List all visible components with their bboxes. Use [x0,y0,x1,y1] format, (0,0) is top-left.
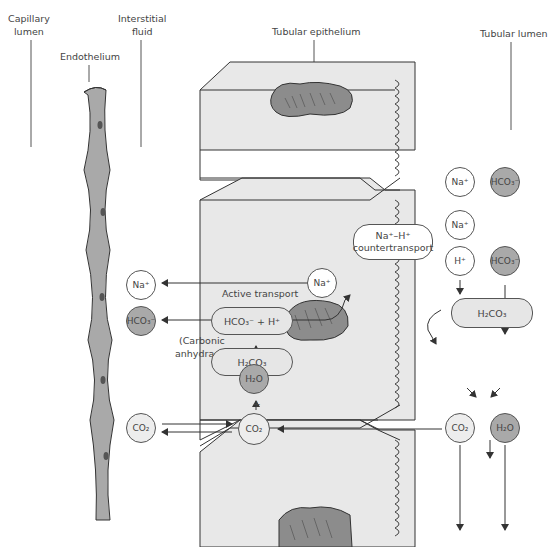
active-transport-label: Active transport [222,287,298,300]
endothelium-label: Endothelium [60,50,120,63]
lumen-bicarbonate-ion-top: HCO₃⁻ [490,167,520,197]
plus-sign: + [253,398,261,411]
interstitial-carbon-dioxide: CO₂ [126,413,156,443]
cell-carbon-dioxide: CO₂ [238,413,270,445]
interstitial-sodium-ion: Na⁺ [126,270,156,300]
cell-bicarbonate-hydrogen-pill: HCO₃⁻ + H⁺ [211,307,293,335]
lumen-bicarbonate-ion-bottom: HCO₃⁻ [490,246,520,276]
capillary-lumen-label: Capillary lumen [8,12,50,38]
lumen-carbon-dioxide: CO₂ [445,413,475,443]
lumen-water-molecule: H₂O [490,413,520,443]
lumen-carbonic-acid-pill: H₂CO₃ [451,298,533,328]
lumen-sodium-ion-top: Na⁺ [445,167,475,197]
interstitial-bicarbonate-ion: HCO₃⁻ [126,306,156,336]
cell-water-molecule: H₂O [239,364,269,394]
interstitial-fluid-label: Interstitial fluid [118,12,166,38]
cell-sodium-ion: Na⁺ [307,268,337,298]
tubular-epithelium-label: Tubular epithelium [272,25,360,38]
lumen-hydrogen-ion: H⁺ [445,246,475,276]
sodium-hydrogen-countertransport: Na⁺–H⁺ countertransport [353,224,433,260]
endothelium-shape [84,87,114,520]
lumen-sodium-ion-middle: Na⁺ [445,210,475,240]
tubular-lumen-label: Tubular lumen [480,27,548,40]
